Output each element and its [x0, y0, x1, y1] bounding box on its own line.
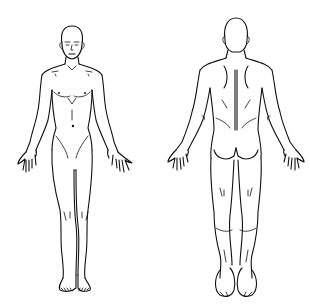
- front-head: [60, 26, 85, 59]
- back-body-figure: [168, 18, 304, 296]
- front-body-figure: [18, 26, 132, 291]
- body-diagram: [0, 0, 310, 305]
